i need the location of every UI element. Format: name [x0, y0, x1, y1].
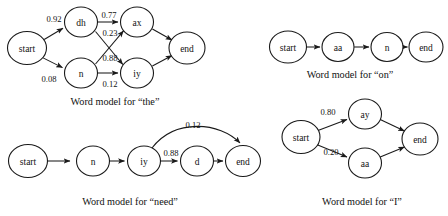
- edge-iy-end: [152, 56, 172, 67]
- node-n-need[interactable]: n: [77, 146, 110, 176]
- nodes-group-i: start ay aa end: [282, 99, 438, 178]
- caption-word-model-i: Word model for “I”: [322, 196, 402, 207]
- edge-aa-end-i: [380, 147, 404, 157]
- edge-weight-dh-iy: 0.23: [102, 28, 117, 38]
- edge-ay-end-i: [380, 120, 404, 132]
- edge-weight-start-ay-i: 0.80: [320, 107, 335, 117]
- edge-start-n: [43, 58, 63, 68]
- caption-word-model-the: Word model for “the”: [71, 96, 160, 107]
- node-label-iy-the: iy: [133, 69, 141, 79]
- diagram-word-model-on: start aa n end Word model for “on”: [270, 31, 444, 80]
- node-end-the[interactable]: end: [169, 32, 205, 64]
- edge-weight-iy-end-need: 0.12: [185, 120, 200, 130]
- node-start-i[interactable]: start: [282, 121, 320, 154]
- node-ax-the[interactable]: ax: [121, 7, 154, 37]
- edge-ax-end: [152, 29, 172, 40]
- node-label-start-on: start: [280, 43, 297, 53]
- edge-weight-start-n: 0.08: [41, 74, 56, 84]
- node-d-need[interactable]: d: [181, 146, 214, 176]
- edge-start-ay-i: [318, 120, 347, 131]
- node-label-d-need: d: [195, 157, 200, 167]
- node-n-on[interactable]: n: [371, 33, 403, 62]
- node-start-on[interactable]: start: [270, 31, 307, 63]
- node-label-n-on: n: [385, 43, 390, 53]
- node-label-iy-need: iy: [140, 157, 148, 167]
- caption-word-model-need: Word model for “need”: [82, 196, 178, 207]
- node-label-start-i: start: [293, 133, 310, 143]
- node-start-need[interactable]: start: [9, 145, 48, 178]
- node-start-the[interactable]: start: [8, 32, 47, 65]
- word-model-figure: start dh ax n iy end: [0, 0, 448, 216]
- node-label-start-need: start: [20, 157, 37, 167]
- node-label-end-need: end: [236, 157, 250, 167]
- node-label-dh-the: dh: [76, 18, 86, 28]
- node-end-on[interactable]: end: [409, 32, 443, 62]
- node-ay-i[interactable]: ay: [349, 99, 382, 129]
- edge-weight-n-ax: 0.88: [102, 53, 117, 63]
- node-n-the[interactable]: n: [65, 58, 98, 88]
- caption-word-model-on: Word model for “on”: [307, 69, 394, 80]
- node-aa-i[interactable]: aa: [349, 148, 382, 178]
- node-label-n-the: n: [79, 69, 84, 79]
- node-label-ay-i: ay: [361, 110, 370, 120]
- edge-weight-iy-d-need: 0.88: [163, 148, 178, 158]
- node-label-start-the: start: [19, 44, 36, 54]
- diagram-word-model-need: start n iy d end 0.88 0.12 Word mode: [9, 120, 261, 207]
- node-iy-need[interactable]: iy: [128, 146, 161, 176]
- node-end-i[interactable]: end: [402, 123, 438, 155]
- diagram-word-model-the: start dh ax n iy end: [8, 7, 206, 107]
- node-aa-on[interactable]: aa: [322, 33, 354, 62]
- edge-weight-n-iy: 0.12: [102, 79, 117, 89]
- edge-weight-start-dh: 0.92: [46, 14, 61, 24]
- edge-weight-dh-ax: 0.77: [101, 10, 117, 20]
- node-label-n-need: n: [91, 157, 96, 167]
- edge-weight-start-aa-i: 0.20: [323, 147, 338, 157]
- node-label-aa-i: aa: [361, 159, 370, 169]
- diagram-word-model-i: start ay aa end 0.80 0.20 Word model for…: [282, 99, 438, 207]
- node-iy-the[interactable]: iy: [121, 58, 154, 88]
- node-label-end-i: end: [413, 135, 427, 145]
- edge-start-dh: [44, 28, 63, 39]
- node-label-end-on: end: [419, 43, 433, 53]
- edge-weights-i: 0.80 0.20: [320, 107, 338, 157]
- node-label-aa-on: aa: [334, 43, 343, 53]
- node-end-need[interactable]: end: [226, 146, 261, 177]
- node-label-end-the: end: [180, 44, 194, 54]
- node-dh-the[interactable]: dh: [65, 7, 98, 37]
- node-label-ax-the: ax: [133, 18, 142, 28]
